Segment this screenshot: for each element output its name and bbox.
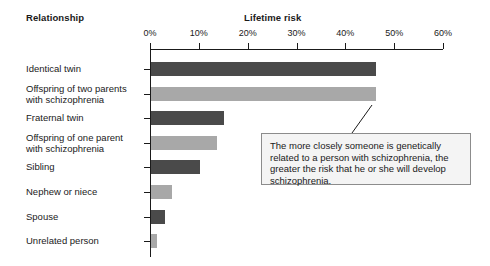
callout-box: The more closely someone is genetically … bbox=[261, 133, 471, 185]
bar-category-label: Nephew or niece bbox=[26, 186, 146, 197]
bar bbox=[151, 185, 172, 199]
bar bbox=[151, 111, 224, 125]
bar-row: Fraternal twin bbox=[0, 107, 490, 131]
x-axis-tick-mark bbox=[443, 43, 444, 49]
x-axis-tick-label: 20% bbox=[239, 28, 257, 38]
bar-category-label: Offspring of one parent with schizophren… bbox=[26, 132, 146, 154]
x-axis-tick-label: 0% bbox=[143, 28, 156, 38]
x-axis-line bbox=[150, 49, 443, 50]
bar bbox=[151, 136, 217, 150]
x-axis-tick-mark bbox=[345, 43, 346, 49]
bar-category-label: Unrelated person bbox=[26, 235, 146, 246]
bar-row: Identical twin bbox=[0, 58, 490, 82]
x-axis-tick-mark bbox=[248, 43, 249, 49]
bar-row: Spouse bbox=[0, 206, 490, 230]
y-axis-tick-mark bbox=[144, 217, 150, 218]
y-axis-tick-mark bbox=[144, 94, 150, 95]
x-axis-tick-label: 30% bbox=[287, 28, 305, 38]
bar-category-label: Spouse bbox=[26, 211, 146, 222]
callout-leader-line bbox=[340, 103, 380, 135]
y-axis-tick-mark bbox=[144, 241, 150, 242]
y-axis-tick-mark bbox=[144, 69, 150, 70]
bar-row: Unrelated person bbox=[0, 230, 490, 254]
bar-category-label: Offspring of two parents with schizophre… bbox=[26, 83, 146, 105]
y-axis-tick-mark bbox=[144, 118, 150, 119]
y-axis-tick-mark bbox=[144, 167, 150, 168]
bar bbox=[151, 160, 200, 174]
y-axis-tick-mark bbox=[144, 192, 150, 193]
x-axis-tick-mark bbox=[199, 43, 200, 49]
bar bbox=[151, 87, 376, 101]
x-axis-tick-label: 10% bbox=[190, 28, 208, 38]
bar-category-label: Sibling bbox=[26, 161, 146, 172]
x-axis-tick-mark bbox=[297, 43, 298, 49]
x-axis-tick-label: 60% bbox=[434, 28, 452, 38]
bar bbox=[151, 210, 165, 224]
bar bbox=[151, 62, 376, 76]
x-axis-tick-label: 40% bbox=[336, 28, 354, 38]
bar bbox=[151, 234, 157, 248]
bar-category-label: Identical twin bbox=[26, 63, 146, 74]
x-axis-tick-label: 50% bbox=[385, 28, 403, 38]
x-axis-tick-mark bbox=[394, 43, 395, 49]
chart-figure: Relationship Lifetime risk 0%10%20%30%40… bbox=[0, 0, 490, 266]
bar-row: Offspring of two parents with schizophre… bbox=[0, 83, 490, 107]
y-axis-tick-mark bbox=[144, 143, 150, 144]
bar-category-label: Fraternal twin bbox=[26, 112, 146, 123]
callout-text: The more closely someone is genetically … bbox=[270, 140, 466, 186]
